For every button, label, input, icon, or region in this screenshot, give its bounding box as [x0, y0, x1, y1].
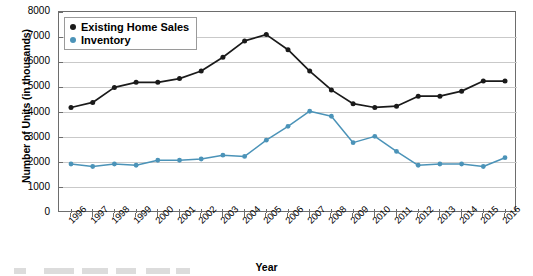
x-tick-mark-outer: [265, 213, 266, 217]
x-tick-mark-outer: [504, 213, 505, 217]
page-caption-artifact: [4, 268, 194, 274]
x-tick-mark-outer: [222, 213, 223, 217]
x-tick-mark-outer: [92, 213, 93, 217]
x-tick-mark-outer: [482, 213, 483, 217]
x-tick-mark-outer: [396, 213, 397, 217]
x-tick-mark-outer: [70, 213, 71, 217]
legend-label: Inventory: [81, 34, 131, 46]
x-tick-mark-outer: [200, 213, 201, 217]
x-tick-mark-outer: [417, 213, 418, 217]
x-tick-mark-outer: [244, 213, 245, 217]
x-tick-mark-outer: [287, 213, 288, 217]
x-tick-mark-outer: [439, 213, 440, 217]
x-tick-mark-outer: [461, 213, 462, 217]
x-tick-mark-outer: [179, 213, 180, 217]
x-tick-mark-outer: [309, 213, 310, 217]
legend-item: Existing Home Sales: [70, 20, 189, 33]
legend-label: Existing Home Sales: [81, 21, 189, 33]
x-tick-mark-outer: [330, 213, 331, 217]
legend-marker-icon: [70, 24, 76, 30]
x-tick-mark-outer: [374, 213, 375, 217]
x-tick-mark-outer: [135, 213, 136, 217]
legend-marker-icon: [70, 37, 76, 43]
x-tick-mark-outer: [157, 213, 158, 217]
x-tick-mark-outer: [352, 213, 353, 217]
chart-container: Number of Units (in thousands) 010002000…: [0, 0, 533, 276]
x-tick-mark-outer: [113, 213, 114, 217]
legend: Existing Home SalesInventory: [64, 17, 197, 50]
legend-item: Inventory: [70, 33, 189, 46]
